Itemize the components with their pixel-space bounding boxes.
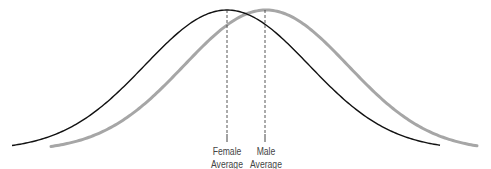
male-label-line2: Average xyxy=(241,158,290,169)
distribution-diagram xyxy=(0,0,491,169)
male-average-label: Male Average xyxy=(241,145,290,169)
male-distribution-curve xyxy=(51,10,477,146)
male-label-line1: Male xyxy=(241,145,290,158)
female-distribution-curve xyxy=(12,10,440,145)
